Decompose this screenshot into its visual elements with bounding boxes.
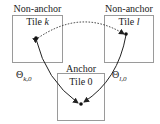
tile-l-index: l xyxy=(137,16,140,27)
anchor-name: Tile 0 xyxy=(57,77,105,87)
tile-l-point xyxy=(124,32,128,36)
tile-k-point xyxy=(34,36,38,40)
tile-k-index: k xyxy=(44,16,48,27)
anchor-point xyxy=(79,102,83,106)
tile-k-name: Tile k xyxy=(12,17,63,27)
theta-l0-label: Θl,0 xyxy=(112,70,126,84)
anchor-heading: Anchor xyxy=(57,64,105,74)
tile-l-name: Tile l xyxy=(104,17,154,27)
tile-l-heading: Non-anchor xyxy=(104,4,154,14)
tile-k-name-text: Tile xyxy=(26,16,44,27)
tile-l-name-text: Tile xyxy=(118,16,136,27)
tile-k-heading: Non-anchor xyxy=(12,4,63,14)
theta-k0-label: Θk,0 xyxy=(16,70,32,84)
